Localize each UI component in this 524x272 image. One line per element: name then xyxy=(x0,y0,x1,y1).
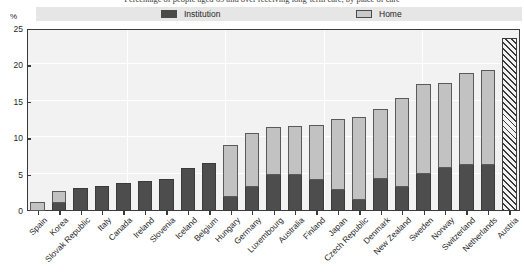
chart-figure: Percentage of people aged 65 and over re… xyxy=(0,0,524,272)
bars-layer xyxy=(27,29,520,211)
bar-segment-home xyxy=(30,202,45,211)
bar-group xyxy=(181,29,196,211)
bar-group xyxy=(266,29,281,211)
bar-segment-institution xyxy=(202,163,217,211)
bar-group xyxy=(331,29,346,211)
bar-segment-institution xyxy=(438,167,453,211)
bar-group xyxy=(116,29,131,211)
bar-group xyxy=(223,29,238,211)
bar-group xyxy=(288,29,303,211)
bar-segment-institution xyxy=(52,202,67,211)
bar-segment-institution xyxy=(159,179,174,211)
x-axis-labels: SpainKoreaSlovak RepublicItalyCanadaIrel… xyxy=(0,215,524,272)
bar-segment-home xyxy=(331,119,346,191)
bar-segment-institution xyxy=(245,186,260,211)
figure-title-strip: Percentage of people aged 65 and over re… xyxy=(0,0,524,7)
legend-swatch-light-icon xyxy=(356,10,372,18)
bar-segment-institution xyxy=(352,199,367,211)
bar-segment-home xyxy=(438,83,453,168)
bar-segment-institution xyxy=(181,168,196,211)
chart-legend: Institution Home xyxy=(36,7,522,21)
bar-segment-institution xyxy=(138,181,153,211)
bar-segment-home xyxy=(223,145,238,197)
bar-segment-institution xyxy=(459,164,474,211)
legend-swatch-dark-icon xyxy=(161,10,177,18)
y-axis-tick-label: 20 xyxy=(1,60,23,70)
bar-segment-institution xyxy=(116,183,131,211)
bar-group xyxy=(416,29,431,211)
bar-segment-institution xyxy=(288,174,303,211)
bar-group xyxy=(202,29,217,211)
bar-group xyxy=(502,29,517,211)
bar-group xyxy=(459,29,474,211)
bar-segment-home xyxy=(481,70,496,165)
bar-group xyxy=(138,29,153,211)
y-axis-tick-label: 10 xyxy=(1,133,23,143)
bar-segment-home xyxy=(395,98,410,187)
legend-item-institution: Institution xyxy=(161,9,220,19)
bar-segment-home xyxy=(288,126,303,175)
legend-item-home: Home xyxy=(356,9,402,19)
bar-group xyxy=(245,29,260,211)
bar-segment-institution xyxy=(331,189,346,211)
bar-segment-home xyxy=(416,84,431,175)
y-axis-tick-label: 5 xyxy=(1,170,23,180)
figure-title: Percentage of people aged 65 and over re… xyxy=(124,0,400,4)
bar-group xyxy=(352,29,367,211)
bar-segment-home xyxy=(373,109,388,179)
bar-segment-institution xyxy=(395,186,410,211)
bar-group xyxy=(30,29,45,211)
x-axis-label: Austria xyxy=(495,215,520,240)
bar-segment-home xyxy=(309,125,324,180)
y-axis-tick-label: 15 xyxy=(1,97,23,107)
legend-label-home: Home xyxy=(379,9,402,19)
bar-segment-institution xyxy=(266,174,281,211)
bar-group xyxy=(95,29,110,211)
bar-group xyxy=(159,29,174,211)
x-axis-label: Spain xyxy=(27,215,49,237)
bar-segment-home xyxy=(459,73,474,165)
bar-group xyxy=(395,29,410,211)
bar-group xyxy=(309,29,324,211)
legend-label-institution: Institution xyxy=(184,9,220,19)
y-axis-unit-label: % xyxy=(10,12,17,21)
bar-group xyxy=(438,29,453,211)
bar-segment-institution xyxy=(73,188,88,211)
bar-segment-institution xyxy=(309,179,324,211)
bar-segment-home xyxy=(352,117,367,200)
bar-group xyxy=(73,29,88,211)
bar-segment-home xyxy=(245,133,260,187)
bar-group xyxy=(373,29,388,211)
bar-segment-institution xyxy=(223,196,238,211)
bar-segment-home xyxy=(52,191,67,203)
x-axis-label: Finland xyxy=(301,215,327,241)
bar-segment-institution xyxy=(481,164,496,211)
bar-segment-home xyxy=(266,127,281,175)
bar-segment-institution xyxy=(373,178,388,211)
bar-group xyxy=(481,29,496,211)
bar-segment-total-hatched xyxy=(502,38,517,211)
y-axis-tick-label: 25 xyxy=(1,24,23,34)
bar-segment-institution xyxy=(416,173,431,211)
bar-group xyxy=(52,29,67,211)
bar-segment-institution xyxy=(95,186,110,211)
